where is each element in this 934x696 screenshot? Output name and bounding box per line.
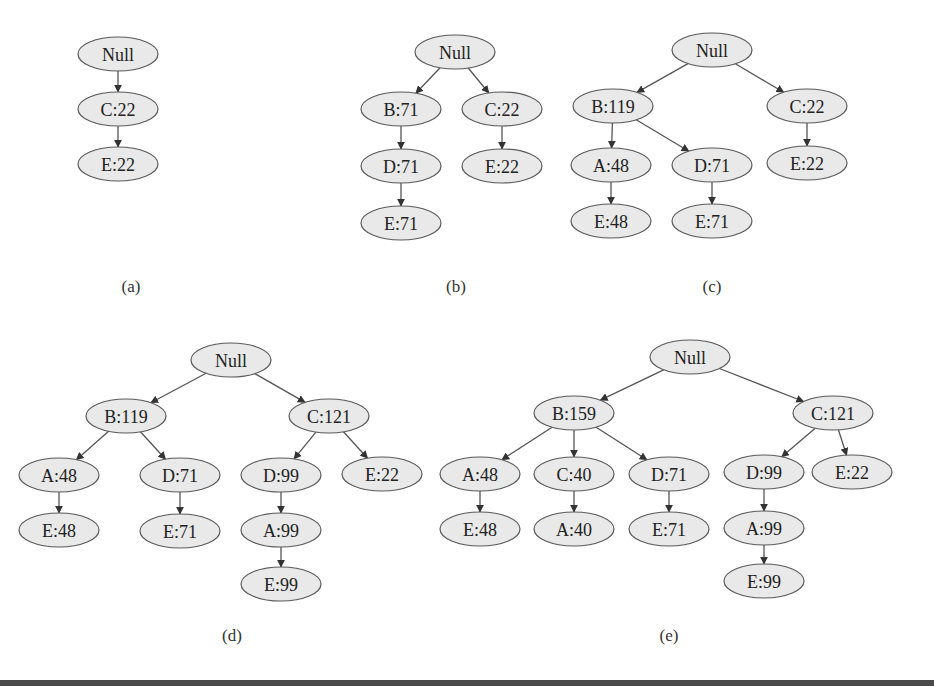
tree-node: E:22 bbox=[812, 455, 892, 489]
tree-node: Null bbox=[78, 37, 158, 71]
node-label: E:71 bbox=[163, 522, 197, 542]
node-label: E:48 bbox=[463, 520, 497, 540]
edge-arrow bbox=[255, 374, 305, 403]
panel-b-nodes: NullB:71C:22D:71E:22E:71 bbox=[361, 35, 542, 240]
fp-tree-figure: NullC:22E:22NullB:71C:22D:71E:22E:71Null… bbox=[0, 0, 934, 696]
node-label: E:99 bbox=[747, 572, 781, 592]
node-label: C:22 bbox=[484, 100, 519, 120]
node-label: A:48 bbox=[41, 466, 77, 486]
node-label: A:99 bbox=[746, 519, 782, 539]
node-label: B:119 bbox=[104, 407, 147, 427]
edge-arrow bbox=[141, 432, 166, 459]
tree-node: E:22 bbox=[767, 146, 847, 180]
tree-node: B:119 bbox=[86, 399, 166, 433]
tree-node: C:121 bbox=[289, 399, 369, 433]
panel-d-nodes: NullB:119C:121A:48D:71D:99E:22E:48E:71A:… bbox=[19, 343, 422, 601]
edge-arrow bbox=[151, 373, 206, 402]
tree-node: D:99 bbox=[724, 455, 804, 489]
tree-node: A:48 bbox=[19, 458, 99, 492]
captions-layer: (a)(b)(c)(d)(e) bbox=[122, 277, 722, 645]
edge-arrow bbox=[600, 370, 663, 400]
node-label: D:71 bbox=[694, 156, 730, 176]
tree-node: D:71 bbox=[361, 149, 441, 183]
node-label: E:22 bbox=[485, 157, 519, 177]
node-label: E:71 bbox=[652, 520, 686, 540]
tree-node: A:48 bbox=[571, 148, 651, 182]
tree-node: B:159 bbox=[534, 396, 614, 430]
node-label: Null bbox=[215, 351, 247, 371]
tree-node: E:71 bbox=[140, 514, 220, 548]
node-label: C:121 bbox=[307, 407, 351, 427]
tree-node: Null bbox=[650, 340, 730, 374]
node-label: A:48 bbox=[462, 465, 498, 485]
tree-node: E:71 bbox=[672, 204, 752, 238]
edge-arrow bbox=[294, 432, 316, 459]
tree-node: E:48 bbox=[440, 512, 520, 546]
node-label: Null bbox=[102, 45, 134, 65]
tree-node: E:99 bbox=[241, 567, 321, 601]
node-label: D:71 bbox=[651, 465, 687, 485]
tree-node: Null bbox=[191, 343, 271, 377]
edge-arrow bbox=[76, 431, 108, 459]
node-label: E:48 bbox=[594, 212, 628, 232]
tree-node: D:99 bbox=[241, 458, 321, 492]
node-label: Null bbox=[674, 348, 706, 368]
edge-arrow bbox=[782, 428, 815, 457]
tree-node: A:99 bbox=[724, 511, 804, 545]
tree-node: B:71 bbox=[361, 92, 441, 126]
tree-node: E:71 bbox=[361, 206, 441, 240]
edge-arrow bbox=[596, 427, 647, 460]
tree-node: E:22 bbox=[462, 149, 542, 183]
edge-arrow bbox=[637, 64, 688, 93]
edge-arrow bbox=[719, 369, 803, 402]
node-label: Null bbox=[439, 43, 471, 63]
node-label: B:119 bbox=[591, 97, 634, 117]
panel-b-edges bbox=[401, 68, 502, 206]
node-label: E:48 bbox=[42, 521, 76, 541]
node-label: E:99 bbox=[264, 575, 298, 595]
node-label: A:48 bbox=[593, 156, 629, 176]
nodes-layer: NullC:22E:22NullB:71C:22D:71E:22E:71Null… bbox=[19, 33, 892, 601]
panel-caption-d: (d) bbox=[222, 626, 242, 645]
node-label: E:22 bbox=[365, 465, 399, 485]
panel-caption-c: (c) bbox=[703, 277, 722, 296]
node-label: E:22 bbox=[790, 154, 824, 174]
node-label: B:71 bbox=[383, 100, 418, 120]
node-label: E:22 bbox=[835, 463, 869, 483]
edge-arrow bbox=[612, 123, 613, 148]
node-label: D:99 bbox=[746, 463, 782, 483]
tree-node: A:48 bbox=[440, 457, 520, 491]
edge-arrow bbox=[416, 68, 440, 93]
node-label: Null bbox=[696, 41, 728, 61]
node-label: D:71 bbox=[162, 466, 198, 486]
tree-node: D:71 bbox=[140, 458, 220, 492]
tree-node: E:48 bbox=[19, 513, 99, 547]
tree-node: C:22 bbox=[462, 92, 542, 126]
edge-arrow bbox=[344, 432, 368, 458]
tree-node: D:71 bbox=[629, 457, 709, 491]
tree-node: C:121 bbox=[793, 396, 873, 430]
tree-node: A:99 bbox=[241, 513, 321, 547]
node-label: E:71 bbox=[384, 214, 418, 234]
tree-node: Null bbox=[415, 35, 495, 69]
tree-node: C:40 bbox=[534, 457, 614, 491]
edge-arrow bbox=[468, 68, 489, 93]
panel-e-nodes: NullB:159C:121A:48C:40D:71D:99E:22E:48A:… bbox=[440, 340, 892, 598]
panel-caption-a: (a) bbox=[122, 277, 141, 296]
edge-arrow bbox=[636, 120, 689, 151]
panel-caption-e: (e) bbox=[660, 626, 679, 645]
tree-node: E:48 bbox=[571, 204, 651, 238]
tree-node: E:22 bbox=[78, 147, 158, 181]
bottom-rule-divider bbox=[0, 680, 934, 686]
node-label: E:71 bbox=[695, 212, 729, 232]
tree-node: Null bbox=[672, 33, 752, 67]
node-label: D:99 bbox=[263, 466, 299, 486]
node-label: C:121 bbox=[811, 404, 855, 424]
panel-caption-b: (b) bbox=[446, 277, 466, 296]
edge-arrow bbox=[838, 430, 846, 455]
node-label: C:22 bbox=[789, 97, 824, 117]
node-label: E:22 bbox=[101, 155, 135, 175]
tree-node: A:40 bbox=[534, 512, 614, 546]
node-label: B:159 bbox=[552, 404, 596, 424]
tree-node: E:71 bbox=[629, 512, 709, 546]
